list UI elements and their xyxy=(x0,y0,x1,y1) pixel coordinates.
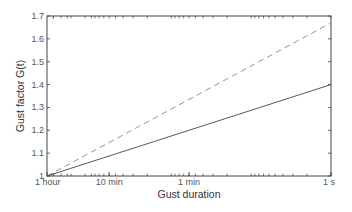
gust-factor-chart: 11.11.21.31.41.51.61.71 hour10 min1 min1… xyxy=(0,0,352,212)
y-axis-label: Gust factor G(t) xyxy=(14,60,26,132)
series-line-solid xyxy=(47,85,331,176)
y-tick-label: 1.7 xyxy=(31,11,44,21)
plot-frame xyxy=(47,16,331,176)
x-tick-label: 1 hour xyxy=(35,177,61,187)
y-tick-label: 1.1 xyxy=(31,148,44,158)
y-tick-label: 1.5 xyxy=(31,57,44,67)
y-tick-label: 1.2 xyxy=(31,125,44,135)
x-tick-label: 10 min xyxy=(96,177,123,187)
series-line-dashed xyxy=(47,23,331,176)
x-tick-label: 1 min xyxy=(178,177,200,187)
x-axis-label: Gust duration xyxy=(157,188,220,200)
y-tick-label: 1.3 xyxy=(31,102,44,112)
y-tick-label: 1.6 xyxy=(31,34,44,44)
x-tick-label: 1 s xyxy=(323,177,336,187)
y-tick-label: 1.4 xyxy=(31,80,44,90)
